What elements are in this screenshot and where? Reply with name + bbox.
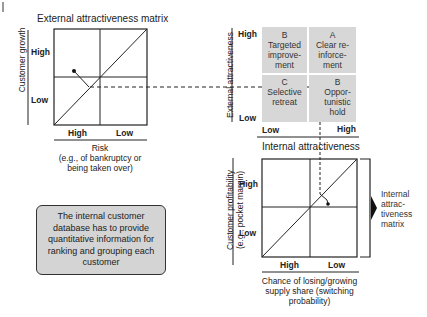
portfolio-y-tick-low: Low — [239, 113, 256, 123]
risk-label-line3: being taken over) — [40, 163, 160, 173]
side-label: attrac- — [381, 199, 412, 209]
quadrant-selective-retreat: C Selective retreat — [262, 75, 307, 122]
side-label: matrix — [381, 219, 412, 229]
external-x-tick-low: Low — [116, 128, 133, 138]
portfolio-x-tick-high: High — [337, 124, 356, 134]
quadrant-text: Targeted — [262, 40, 307, 50]
external-x-axis-label: Risk (e.g., of bankruptcy or being taken… — [40, 143, 160, 173]
risk-label-line2: (e.g., of bankruptcy or — [40, 153, 160, 163]
side-label: tiveness — [381, 209, 412, 219]
internal-x-tick-low: Low — [328, 260, 345, 270]
internal-x-axis-label: Chance of losing/growing supply share (s… — [252, 276, 367, 306]
profitability-label: Customer profitability — [225, 155, 235, 265]
internal-x-tick-high: High — [280, 260, 299, 270]
quadrant-clear-reinforcement: A Clear re- inforce- ment — [309, 27, 356, 73]
internal-y-axis-label: Customer profitability (e.g., pocket mar… — [225, 155, 245, 265]
portfolio-x-axis-label: Internal attractiveness — [262, 141, 360, 152]
external-y-tick-high: High — [31, 47, 50, 57]
quadrant-targeted-improvement: B Targeted improve- ment — [262, 27, 307, 73]
switching-label-line2: supply share (switching — [252, 286, 367, 296]
external-y-tick-low: Low — [31, 95, 48, 105]
quadrant-grade: B — [262, 30, 307, 40]
internal-matrix-side-label: Internal attrac- tiveness matrix — [381, 189, 412, 229]
external-y-axis-label: Customer growth — [17, 20, 27, 100]
quadrant-grade: A — [309, 30, 356, 40]
quadrant-text: retreat — [262, 97, 307, 107]
internal-y-tick-low: Low — [239, 228, 256, 238]
quadrant-text: ment — [309, 60, 356, 70]
note-text: The internal customer database has to pr… — [41, 211, 161, 269]
portfolio-x-tick-low: Low — [262, 125, 279, 135]
quadrant-text: inforce- — [309, 50, 356, 60]
internal-y-tick-high: High — [239, 179, 258, 189]
external-x-tick-high: High — [68, 128, 87, 138]
risk-label: Risk — [40, 143, 160, 153]
quadrant-text: hold — [319, 107, 356, 117]
portfolio-y-axis-label: External attractiveness — [225, 25, 235, 125]
note-box: The internal customer database has to pr… — [36, 205, 166, 275]
switching-label: Chance of losing/growing — [252, 276, 367, 286]
quadrant-text: ment — [262, 60, 307, 70]
side-label: Internal — [381, 189, 412, 199]
external-matrix-title: External attractiveness matrix — [37, 13, 168, 24]
quadrant-text: tunistic — [319, 97, 356, 107]
quadrant-text: improve- — [262, 50, 307, 60]
quadrant-grade: C — [262, 77, 307, 87]
quadrant-opportunistic-hold: B Oppor- tunistic hold — [309, 75, 356, 122]
portfolio-y-tick-high: High — [238, 29, 257, 39]
quadrant-grade: B — [319, 77, 356, 87]
quadrant-text: Clear re- — [309, 40, 356, 50]
quadrant-text: Oppor- — [319, 87, 356, 97]
profitability-label-line2: (e.g., pocket margin) — [235, 155, 245, 265]
quadrant-text: Selective — [262, 87, 307, 97]
switching-label-line3: probability) — [252, 296, 367, 306]
